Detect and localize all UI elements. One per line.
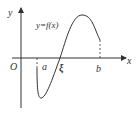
point-xi-label: ξ [59,62,64,74]
function-graph: y x O y=f(x) a ξ b [0,0,140,118]
curve-label: y=f(x) [35,20,59,30]
y-axis-label: y [7,7,13,18]
point-b-label: b [96,63,101,74]
point-a-label: a [42,61,47,72]
origin-label: O [10,61,17,72]
x-axis-label: x [126,55,132,66]
